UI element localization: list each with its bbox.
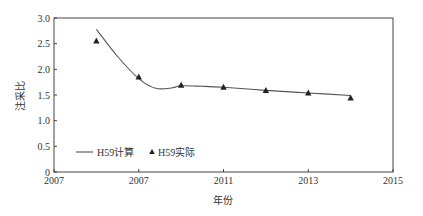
x-tick-label: 2015 xyxy=(383,175,403,186)
x-axis-title: 年份 xyxy=(213,194,233,206)
chart: 00.51.01.52.02.53.0 20072007201120132015… xyxy=(0,0,423,216)
y-tick-label: 0.5 xyxy=(38,141,51,152)
y-tick-label: 3.0 xyxy=(38,13,51,24)
y-tick-label: 2.5 xyxy=(38,38,51,49)
triangle-marker-icon xyxy=(93,38,99,44)
x-tick-label: 2007 xyxy=(129,175,149,186)
series-layer xyxy=(93,29,354,100)
legend-triangle-icon xyxy=(149,149,155,154)
y-tick-label: 1.5 xyxy=(38,90,51,101)
y-tick-label: 1.0 xyxy=(38,115,51,126)
legend-label-calculated: H59计算 xyxy=(97,146,134,158)
triangle-marker-icon xyxy=(178,82,184,88)
x-tick-label: 2013 xyxy=(298,175,318,186)
legend-label-actual: H59实际 xyxy=(158,146,195,158)
x-tick-label: 2011 xyxy=(214,175,234,186)
x-tick-label: 2007 xyxy=(44,175,64,186)
legend: H59计算H59实际 xyxy=(76,146,195,158)
y-tick-label: 2.0 xyxy=(38,64,51,75)
y-axis-title: 注采比 xyxy=(14,81,26,111)
